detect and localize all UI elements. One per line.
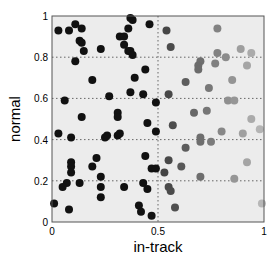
data-point (67, 134, 75, 142)
data-point (167, 187, 175, 195)
data-point (213, 49, 221, 57)
data-point (114, 113, 122, 121)
data-point (196, 173, 204, 181)
data-point (177, 162, 185, 170)
data-point (88, 162, 96, 170)
data-point (230, 175, 238, 183)
data-point (205, 84, 213, 92)
data-point (120, 183, 128, 191)
data-point (137, 208, 145, 216)
data-point (163, 26, 171, 34)
data-point (97, 193, 105, 201)
data-point (152, 99, 160, 107)
data-point (76, 179, 84, 187)
data-point (207, 138, 215, 146)
x-tick-labels: 00.51 (49, 226, 267, 237)
data-point (146, 20, 154, 28)
data-point (67, 169, 75, 177)
data-point (152, 164, 160, 172)
data-point (143, 119, 151, 127)
data-point (78, 39, 86, 47)
data-point (88, 76, 96, 84)
y-tick-label: 0.6 (34, 93, 48, 104)
data-point (165, 156, 173, 164)
data-point (141, 152, 149, 160)
data-point (78, 113, 86, 121)
data-point (143, 185, 151, 193)
data-point (196, 138, 204, 146)
data-point (50, 200, 58, 208)
x-tick-label: 0.5 (151, 226, 165, 237)
data-point (97, 173, 105, 181)
data-point (148, 212, 156, 220)
data-point (182, 78, 190, 86)
y-tick-label: 0 (42, 217, 48, 228)
data-point (194, 66, 202, 74)
data-point (129, 51, 137, 59)
data-point (213, 24, 221, 32)
data-point (139, 90, 147, 98)
data-point (116, 129, 124, 137)
y-tick-label: 0.4 (34, 135, 48, 146)
data-point (131, 74, 139, 82)
data-point (239, 129, 247, 137)
data-point (243, 158, 251, 166)
data-point (228, 76, 236, 84)
data-point (126, 88, 134, 96)
data-point (93, 154, 101, 162)
data-point (141, 66, 149, 74)
x-tick-label: 0 (49, 226, 55, 237)
data-point (103, 132, 111, 140)
data-point (80, 47, 88, 55)
data-point (152, 127, 160, 135)
data-point (169, 121, 177, 129)
data-point (54, 129, 62, 137)
data-point (167, 43, 175, 51)
data-point (171, 204, 179, 212)
data-point (256, 125, 264, 133)
data-point (211, 59, 219, 67)
data-point (97, 45, 105, 53)
data-point (247, 115, 255, 123)
data-point (218, 127, 226, 135)
data-point (160, 169, 168, 177)
scatter-chart: 00.51 00.20.40.60.81 in-track normal (0, 0, 279, 268)
y-tick-label: 1 (42, 11, 48, 22)
y-axis-label: normal (6, 96, 23, 142)
data-point (243, 61, 251, 69)
data-point (65, 26, 73, 34)
data-point (61, 97, 69, 105)
data-point (182, 144, 190, 152)
data-point (203, 107, 211, 115)
data-point (190, 109, 198, 117)
data-point (97, 183, 105, 191)
data-point (54, 26, 62, 34)
data-point (124, 24, 132, 32)
data-point (247, 49, 255, 57)
data-point (165, 90, 173, 98)
data-point (258, 200, 266, 208)
data-point (59, 183, 67, 191)
data-point (65, 206, 73, 214)
data-point (71, 57, 79, 65)
y-tick-labels: 00.20.40.60.81 (34, 11, 48, 228)
y-tick-label: 0.8 (34, 52, 48, 63)
data-point (78, 24, 86, 32)
y-tick-label: 0.2 (34, 176, 48, 187)
data-point (230, 97, 238, 105)
data-point (129, 16, 137, 24)
data-point (222, 53, 230, 61)
data-point (120, 33, 128, 41)
x-axis-label: in-track (133, 238, 183, 255)
x-tick-label: 1 (261, 226, 267, 237)
data-point (105, 92, 113, 100)
data-point (237, 45, 245, 53)
